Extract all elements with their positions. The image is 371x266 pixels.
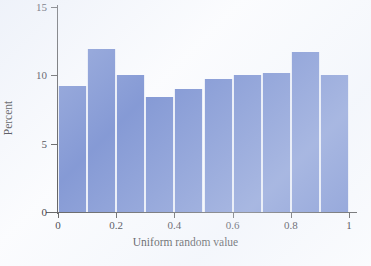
histogram-bar [262,73,291,212]
plot-area [58,7,349,212]
y-tick-label: 15 [7,2,47,13]
y-axis-line [57,5,58,214]
histogram-bar [291,52,320,212]
x-tick-mark [116,213,117,218]
histogram-figure: 051015 00.20.40.60.81 Percent Uniform ra… [0,0,371,266]
histogram-bar [116,75,145,212]
y-tick-mark [51,75,57,76]
x-tick-mark [58,213,59,218]
x-tick-mark [174,213,175,218]
x-axis-line [46,212,357,213]
histogram-bar [233,75,262,212]
y-tick-label: 0 [7,207,47,218]
x-tick-mark [291,213,292,218]
y-tick-mark [51,144,57,145]
y-tick-mark [51,212,57,213]
x-axis-title: Uniform random value [0,236,371,248]
x-tick-label: 1 [329,220,369,231]
y-tick-label: 10 [7,70,47,81]
x-tick-label: 0 [38,220,78,231]
histogram-bar [320,75,349,212]
x-tick-mark [349,213,350,218]
x-tick-label: 0.8 [271,220,311,231]
histogram-bar [58,86,87,212]
x-tick-label: 0.6 [213,220,253,231]
x-tick-mark [233,213,234,218]
y-tick-mark [51,7,57,8]
histogram-bar [87,49,116,212]
y-axis-title: Percent [2,88,14,148]
histogram-bar [174,89,203,212]
x-tick-label: 0.2 [96,220,136,231]
histogram-bar [145,97,174,212]
histogram-bar [204,79,233,212]
x-tick-label: 0.4 [154,220,194,231]
